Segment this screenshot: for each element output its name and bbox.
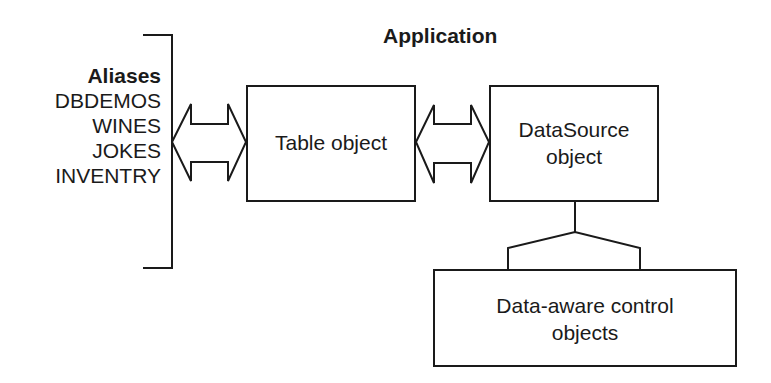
controls-label-line2: objects (552, 319, 619, 346)
aliases-header: Aliases (55, 63, 161, 88)
alias-item: INVENTRY (55, 163, 161, 188)
table-object-label: Table object (275, 129, 387, 156)
diagram-title: Application (383, 24, 497, 48)
datasource-label-line2: object (546, 143, 602, 170)
table-object-label-wrap: Table object (247, 86, 415, 199)
datasource-label-line1: DataSource (519, 116, 630, 143)
double-arrow-aliases-table (172, 104, 246, 181)
alias-item: DBDEMOS (55, 88, 161, 113)
fork-connector-branches (508, 232, 640, 270)
controls-label-line1: Data-aware control (496, 292, 673, 319)
aliases-list: Aliases DBDEMOS WINES JOKES INVENTRY (55, 63, 161, 188)
alias-item: JOKES (55, 138, 161, 163)
controls-label-wrap: Data-aware control objects (434, 272, 736, 366)
datasource-label-wrap: DataSource object (490, 86, 658, 199)
alias-item: WINES (55, 113, 161, 138)
double-arrow-table-datasource (416, 105, 489, 183)
